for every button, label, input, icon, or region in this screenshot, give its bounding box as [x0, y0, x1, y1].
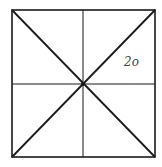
center-point [81, 82, 85, 86]
angle-label: 2o [123, 55, 139, 69]
diagram-canvas: 2o [0, 0, 162, 167]
